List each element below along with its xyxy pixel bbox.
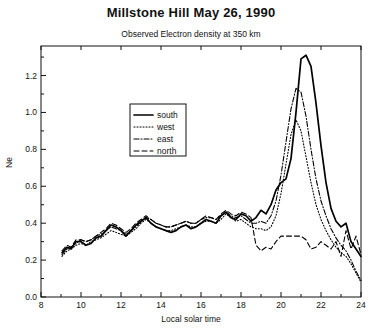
- legend-label-west: west: [156, 122, 175, 132]
- series-line-north: [62, 210, 361, 256]
- series-line-south: [62, 55, 361, 256]
- series-line-east: [62, 88, 361, 280]
- plot-area: southwesteastnorth: [0, 0, 382, 332]
- legend-label-south: south: [157, 110, 178, 120]
- series-line-west: [62, 120, 361, 282]
- legend-label-east: east: [157, 134, 174, 144]
- legend-label-north: north: [157, 146, 177, 156]
- chart-figure: Millstone Hill May 26, 1990 Observed Ele…: [0, 0, 382, 332]
